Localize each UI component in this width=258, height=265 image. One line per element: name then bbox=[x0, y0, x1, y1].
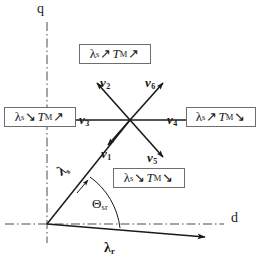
annotation-box-left: λs↘TM↗ bbox=[4, 107, 76, 127]
box-right-flux-arrow: ↗ bbox=[205, 109, 218, 125]
v2-subscript: 2 bbox=[106, 82, 110, 91]
v3-subscript: 3 bbox=[85, 119, 89, 128]
box-bottom-torque-symbol: T bbox=[146, 170, 153, 186]
vector-label-v3: v3 bbox=[79, 113, 89, 128]
space-vector-diagram: q d v2 v6 v3 v4 v1 v5 λs λr Θsr λs↗TM↗ λ… bbox=[0, 0, 258, 265]
box-top-torque-symbol: T bbox=[112, 46, 119, 62]
vector-label-v1: v1 bbox=[101, 147, 111, 162]
box-top-torque-sub: M bbox=[120, 49, 128, 59]
box-bottom-torque-arrow: ↘ bbox=[161, 170, 174, 186]
box-left-torque-sub: M bbox=[45, 112, 53, 122]
lambda-r-label: λr bbox=[104, 241, 115, 256]
lambda-r-base: λ bbox=[104, 240, 111, 255]
theta-base: Θ bbox=[92, 196, 101, 211]
theta-sr-label: Θsr bbox=[92, 197, 108, 212]
v3-base: v bbox=[79, 112, 85, 127]
box-left-torque-arrow: ↗ bbox=[52, 109, 65, 125]
q-axis-label: q bbox=[37, 2, 44, 16]
v5-base: v bbox=[147, 150, 153, 165]
d-axis-label: d bbox=[231, 211, 238, 225]
v2-base: v bbox=[100, 75, 106, 90]
v1-subscript: 1 bbox=[107, 153, 111, 162]
v4-subscript: 4 bbox=[173, 119, 177, 128]
v1-arrow bbox=[108, 120, 130, 145]
lambda-r-subscript: r bbox=[111, 246, 115, 256]
v6-subscript: 6 bbox=[151, 82, 155, 91]
lambda-r-vector-line bbox=[47, 224, 205, 237]
box-top-torque-arrow: ↗ bbox=[127, 46, 140, 62]
annotation-box-top: λs↗TM↗ bbox=[79, 44, 151, 64]
lambda-s-arc-tick bbox=[77, 180, 88, 193]
box-bottom-torque-sub: M bbox=[154, 173, 162, 183]
annotation-box-bottom: λs↘TM↘ bbox=[113, 168, 185, 188]
v6-base: v bbox=[145, 75, 151, 90]
box-top-flux-arrow: ↗ bbox=[99, 46, 112, 62]
vector-label-v2: v2 bbox=[100, 76, 110, 91]
diagram-canvas bbox=[0, 0, 258, 265]
box-left-torque-symbol: T bbox=[37, 109, 44, 125]
box-left-flux-arrow: ↘ bbox=[24, 109, 37, 125]
annotation-box-right: λs↗TM↘ bbox=[186, 107, 256, 127]
box-right-torque-arrow: ↘ bbox=[233, 109, 246, 125]
theta-subscript: sr bbox=[101, 202, 108, 212]
v5-subscript: 5 bbox=[153, 157, 157, 166]
vector-label-v6: v6 bbox=[145, 76, 155, 91]
box-right-torque-sub: M bbox=[226, 112, 234, 122]
v4-base: v bbox=[167, 112, 173, 127]
v1-base: v bbox=[101, 146, 107, 161]
box-bottom-flux-arrow: ↘ bbox=[133, 170, 146, 186]
vector-label-v4: v4 bbox=[167, 113, 177, 128]
vector-label-v5: v5 bbox=[147, 151, 157, 166]
box-right-torque-symbol: T bbox=[218, 109, 225, 125]
